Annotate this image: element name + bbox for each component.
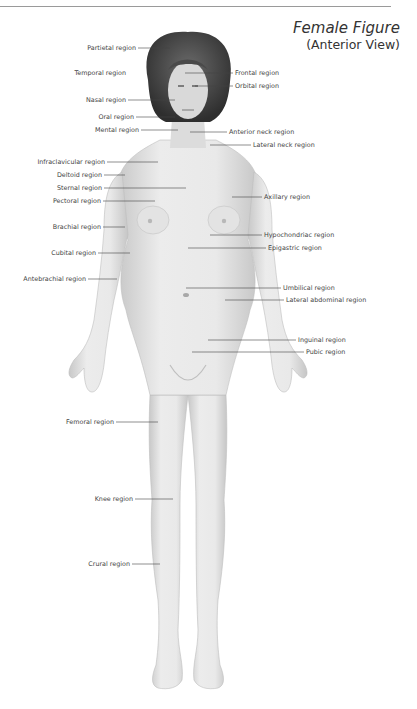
label-lateral-neck: Lateral neck region: [253, 141, 315, 149]
label-pubic: Pubic region: [306, 348, 345, 356]
label-cubital: Cubital region: [51, 249, 96, 257]
label-femoral: Femoral region: [66, 418, 114, 426]
label-frontal: Frontal region: [235, 69, 279, 77]
label-partietal: Partietal region: [87, 44, 136, 52]
label-inguinal: Inguinal region: [298, 336, 346, 344]
label-mental: Mental region: [95, 126, 139, 134]
label-antebrachial: Antebrachial region: [23, 275, 86, 283]
label-deltoid: Deltoid region: [57, 171, 102, 179]
label-pectoral: Pectoral region: [53, 197, 101, 205]
label-epigastric: Epigastric region: [268, 244, 322, 252]
body-silhouette: [69, 118, 307, 689]
label-oral: Oral region: [98, 113, 134, 121]
label-brachial: Brachial region: [53, 223, 101, 231]
label-sternal: Sternal region: [57, 184, 102, 192]
label-crural: Crural region: [88, 560, 130, 568]
label-orbital: Orbital region: [235, 82, 279, 90]
label-hypochondriac: Hypochondriac region: [264, 231, 334, 239]
label-nasal: Nasal region: [86, 96, 126, 104]
label-umbilical: Umbilical region: [283, 284, 335, 292]
head: [146, 32, 230, 122]
label-lateral-abdominal: Lateral abdominal region: [286, 296, 366, 304]
label-axillary: Axillary region: [264, 193, 310, 201]
label-infraclavicular: Infraclavicular region: [37, 158, 105, 166]
label-knee: Knee region: [95, 495, 133, 503]
label-temporal: Temporal region: [74, 69, 126, 77]
label-anterior-neck: Anterior neck region: [229, 128, 294, 136]
female-figure-illustration: [0, 0, 417, 709]
